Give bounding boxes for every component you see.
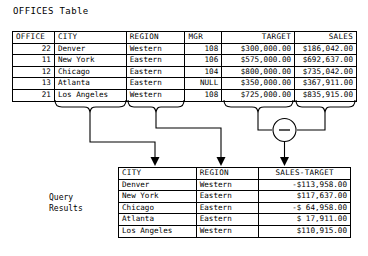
cell-office: 13 bbox=[13, 78, 55, 90]
cell-mgr: 108 bbox=[185, 89, 222, 101]
brace-sales bbox=[296, 100, 355, 112]
cell-city: Chicago bbox=[119, 202, 197, 214]
cell-sales-target: $ 17,911.00 bbox=[259, 214, 351, 226]
cell-target: $575,000.00 bbox=[222, 55, 295, 67]
table-row: Denver Western -$113,958.00 bbox=[119, 179, 351, 191]
cell-mgr: NULL bbox=[185, 78, 222, 90]
cell-region: Western bbox=[126, 43, 185, 55]
cell-sales: $835,915.00 bbox=[295, 89, 357, 101]
brace-target bbox=[224, 100, 293, 112]
column-header-mgr: MGR bbox=[185, 32, 222, 44]
cell-city: Los Angeles bbox=[119, 225, 197, 237]
diagram-canvas: OFFICES Table OFFICE CITY REGION MGR TAR… bbox=[0, 0, 368, 256]
query-results-label: Query Results bbox=[49, 192, 83, 214]
cell-region: Western bbox=[196, 225, 259, 237]
cell-region: Eastern bbox=[126, 78, 185, 90]
route-target-to-operator bbox=[258, 112, 272, 130]
cell-office: 22 bbox=[13, 43, 55, 55]
subtraction-operator bbox=[273, 119, 296, 142]
cell-sales: $186,042.00 bbox=[295, 43, 357, 55]
cell-region: Western bbox=[196, 179, 259, 191]
arrow-to-city bbox=[151, 157, 160, 166]
cell-sales: $735,042.00 bbox=[295, 66, 357, 78]
column-header-sales: SALES bbox=[295, 32, 357, 44]
cell-mgr: 108 bbox=[185, 43, 222, 55]
table-row: 21 Los Angeles Western 108 $725,000.00 $… bbox=[13, 89, 357, 101]
cell-sales-target: -$ 64,958.00 bbox=[259, 202, 351, 214]
cell-target: $300,000.00 bbox=[222, 43, 295, 55]
table-row: Los Angeles Western $110,915.00 bbox=[119, 225, 351, 237]
cell-sales: $692,637.00 bbox=[295, 55, 357, 67]
cell-region: Western bbox=[126, 89, 185, 101]
cell-region: Eastern bbox=[196, 214, 259, 226]
table-header-row: CITY REGION SALES-TARGET bbox=[119, 168, 351, 180]
table-row: 22 Denver Western 108 $300,000.00 $186,0… bbox=[13, 43, 357, 55]
page-title: OFFICES Table bbox=[13, 6, 89, 16]
column-header-sales-target: SALES-TARGET bbox=[259, 168, 351, 180]
cell-city: New York bbox=[119, 191, 197, 203]
cell-sales: $367,911.00 bbox=[295, 78, 357, 90]
cell-target: $350,000.00 bbox=[222, 78, 295, 90]
cell-mgr: 104 bbox=[185, 66, 222, 78]
column-header-city: CITY bbox=[54, 32, 126, 44]
arrow-to-region bbox=[217, 157, 226, 166]
table-row: Chicago Eastern -$ 64,958.00 bbox=[119, 202, 351, 214]
cell-office: 12 bbox=[13, 66, 55, 78]
cell-region: Eastern bbox=[196, 202, 259, 214]
cell-city: Chicago bbox=[54, 66, 126, 78]
brace-city bbox=[55, 100, 126, 112]
cell-region: Eastern bbox=[126, 66, 185, 78]
table-row: 11 New York Eastern 106 $575,000.00 $692… bbox=[13, 55, 357, 67]
table-row: Atlanta Eastern $ 17,911.00 bbox=[119, 214, 351, 226]
cell-city: Atlanta bbox=[119, 214, 197, 226]
cell-mgr: 106 bbox=[185, 55, 222, 67]
cell-target: $800,000.00 bbox=[222, 66, 295, 78]
table-header-row: OFFICE CITY REGION MGR TARGET SALES bbox=[13, 32, 357, 44]
results-table: CITY REGION SALES-TARGET Denver Western … bbox=[118, 167, 351, 238]
cell-target: $725,000.00 bbox=[222, 89, 295, 101]
brace-region bbox=[128, 100, 184, 112]
cell-office: 11 bbox=[13, 55, 55, 67]
table-row: 13 Atlanta Eastern NULL $350,000.00 $367… bbox=[13, 78, 357, 90]
column-header-region: REGION bbox=[196, 168, 259, 180]
column-header-region: REGION bbox=[126, 32, 185, 44]
route-city-to-results bbox=[90, 112, 155, 158]
column-header-target: TARGET bbox=[222, 32, 295, 44]
cell-office: 21 bbox=[13, 89, 55, 101]
arrow-to-sales-target bbox=[280, 157, 289, 166]
cell-sales-target: $110,915.00 bbox=[259, 225, 351, 237]
cell-region: Eastern bbox=[196, 191, 259, 203]
cell-city: Atlanta bbox=[54, 78, 126, 90]
cell-city: Denver bbox=[119, 179, 197, 191]
offices-table: OFFICE CITY REGION MGR TARGET SALES 22 D… bbox=[12, 31, 357, 102]
column-header-city: CITY bbox=[119, 168, 197, 180]
cell-city: Denver bbox=[54, 43, 126, 55]
cell-region: Eastern bbox=[126, 55, 185, 67]
cell-sales-target: -$113,958.00 bbox=[259, 179, 351, 191]
table-row: New York Eastern $117,637.00 bbox=[119, 191, 351, 203]
route-sales-to-operator bbox=[297, 112, 325, 130]
cell-city: Los Angeles bbox=[54, 89, 126, 101]
table-row: 12 Chicago Eastern 104 $800,000.00 $735,… bbox=[13, 66, 357, 78]
cell-city: New York bbox=[54, 55, 126, 67]
route-region-to-results bbox=[156, 112, 221, 158]
column-header-office: OFFICE bbox=[13, 32, 55, 44]
cell-sales-target: $117,637.00 bbox=[259, 191, 351, 203]
